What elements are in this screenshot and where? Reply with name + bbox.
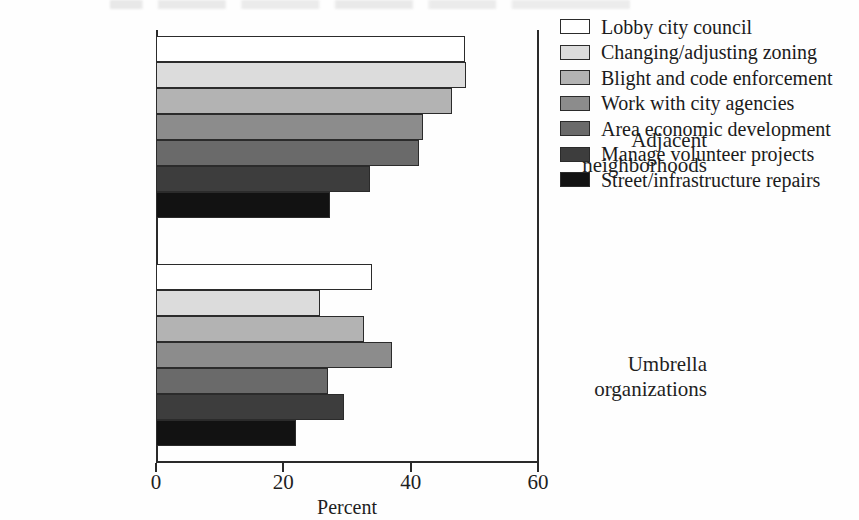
legend-item-6[interactable]: Street/infrastructure repairs xyxy=(560,167,859,193)
legend-swatch-icon-0 xyxy=(560,19,590,34)
legend-swatch-icon-5 xyxy=(560,147,590,162)
bar-group-0-series-5 xyxy=(156,166,370,192)
legend-swatch-icon-2 xyxy=(560,70,590,85)
x-tick-label-60: 60 xyxy=(528,472,549,493)
bar-group-0-series-3 xyxy=(156,114,423,140)
bar-group-1-series-4 xyxy=(156,368,328,394)
legend-label-1: Changing/adjusting zoning xyxy=(601,41,817,63)
legend-item-2[interactable]: Blight and code enforcement xyxy=(560,65,859,91)
bar-group-1-series-3 xyxy=(156,342,392,368)
legend-swatch-icon-6 xyxy=(560,172,590,187)
plot-area xyxy=(156,30,538,462)
bar-group-1-series-2 xyxy=(156,316,364,342)
bar-group-0-series-0 xyxy=(156,36,465,62)
bar-group-1-series-6 xyxy=(156,420,296,446)
legend-item-5[interactable]: Manage volunteer projects xyxy=(560,142,859,168)
chart-root: 0204060 Percent Adjacent neighborhoods U… xyxy=(0,0,859,520)
bar-group-0-series-6 xyxy=(156,192,330,218)
bar-group-0-series-2 xyxy=(156,88,452,114)
group-label-umbrella-organizations: Umbrella organizations xyxy=(594,352,707,402)
legend-item-3[interactable]: Work with city agencies xyxy=(560,91,859,117)
legend-label-3: Work with city agencies xyxy=(601,92,794,114)
x-tick-label-20: 20 xyxy=(273,472,294,493)
legend-label-6: Street/infrastructure repairs xyxy=(601,169,820,191)
legend-label-0: Lobby city council xyxy=(601,16,752,38)
legend-swatch-icon-1 xyxy=(560,45,590,60)
legend-swatch-icon-4 xyxy=(560,121,590,136)
bar-group-1-series-1 xyxy=(156,290,320,316)
legend-label-4: Area economic development xyxy=(601,118,831,140)
legend-item-1[interactable]: Changing/adjusting zoning xyxy=(560,40,859,66)
legend-swatch-icon-3 xyxy=(560,96,590,111)
bar-group-1-series-5 xyxy=(156,394,344,420)
cropped-title-strip xyxy=(110,0,630,9)
x-axis-title: Percent xyxy=(317,497,377,517)
bar-group-1-series-0 xyxy=(156,264,372,290)
legend-item-4[interactable]: Area economic development xyxy=(560,116,859,142)
legend-label-2: Blight and code enforcement xyxy=(601,67,833,89)
bar-group-0-series-1 xyxy=(156,62,466,88)
legend-label-5: Manage volunteer projects xyxy=(601,143,814,165)
legend-item-0[interactable]: Lobby city council xyxy=(560,14,859,40)
x-tick-label-0: 0 xyxy=(151,472,162,493)
bar-group-0-series-4 xyxy=(156,140,419,166)
x-tick-label-40: 40 xyxy=(400,472,421,493)
legend: Lobby city councilChanging/adjusting zon… xyxy=(560,14,859,193)
